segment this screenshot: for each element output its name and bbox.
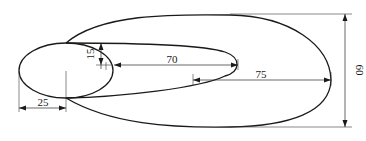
dimension-60: 60: [230, 14, 366, 127]
outer-oval-curve: [66, 15, 331, 127]
dimension-70: 70: [114, 53, 238, 70]
dimension-75-label: 75: [256, 68, 268, 80]
technical-drawing: 60 75 70 15 25: [0, 0, 366, 141]
dimension-60-label: 60: [354, 65, 366, 77]
dimension-75: 75: [193, 68, 331, 86]
dimension-15-label: 15: [84, 48, 96, 60]
dimension-15: 15: [84, 43, 112, 70]
dimension-25: 25: [19, 71, 66, 112]
dimension-70-label: 70: [167, 53, 179, 65]
dimension-25-label: 25: [38, 96, 50, 108]
